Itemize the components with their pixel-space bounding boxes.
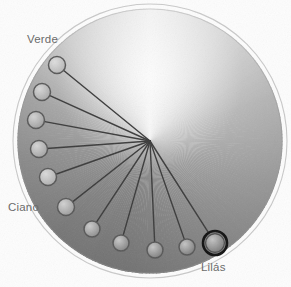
wheel-node-4[interactable] (31, 141, 48, 158)
node-gloss (28, 112, 43, 127)
wheel-node-3[interactable] (28, 112, 45, 129)
node-gloss (49, 57, 64, 72)
wheel-node-7[interactable] (84, 221, 100, 237)
wheel-node-5[interactable] (40, 169, 57, 186)
wheel-node-2[interactable] (34, 84, 51, 101)
wheel-node-8[interactable] (113, 235, 129, 251)
figure-canvas: Verde Ciano Lilás (0, 0, 291, 287)
node-gloss (31, 141, 46, 156)
node-gloss (148, 243, 162, 257)
node-gloss (206, 234, 223, 251)
node-gloss (34, 84, 49, 99)
wheel-node-10[interactable] (179, 239, 195, 255)
node-gloss (58, 199, 73, 214)
node-gloss (114, 236, 128, 250)
wheel-node-11[interactable] (203, 231, 227, 255)
label-ciano: Ciano (8, 202, 39, 214)
wheel-node-1[interactable] (49, 57, 66, 74)
node-gloss (40, 169, 55, 184)
node-gloss (85, 222, 99, 236)
wheel-node-9[interactable] (147, 242, 163, 258)
node-gloss (180, 240, 194, 254)
wheel-node-6[interactable] (58, 199, 75, 216)
label-lilas: Lilás (201, 262, 226, 274)
label-verde: Verde (27, 34, 58, 46)
